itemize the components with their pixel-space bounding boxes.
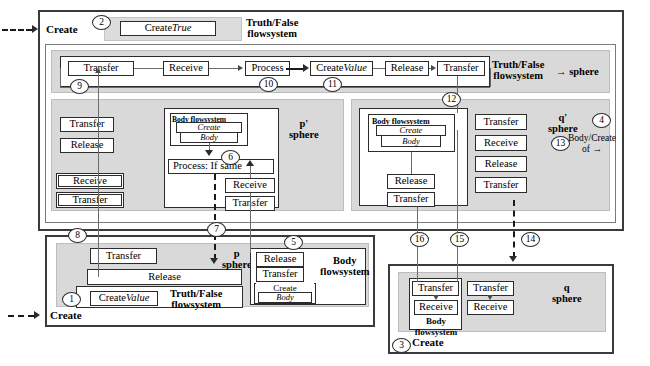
node-col-release: Release (475, 156, 527, 172)
node-bodyp-transfer: Transfer (256, 267, 304, 282)
body-flowsystem-q-label: Body flowsystem (412, 316, 460, 338)
node-col-transfer-2: Transfer (475, 177, 527, 193)
node-pp-body: Body (180, 132, 238, 143)
q-label-line1: q (564, 282, 570, 293)
node-create-true-text: Create (145, 23, 172, 34)
connector-9-vertical (98, 70, 99, 277)
node-left-transfer-2: Transfer (56, 192, 124, 208)
node-col-transfer-1: Transfer (475, 114, 527, 130)
arrow-pp-receive-up (246, 160, 254, 166)
node-p-create-value-em: Value (126, 293, 149, 304)
node-main-create-value-text: Create (316, 63, 343, 74)
node-bodyp-body-text: Body (276, 293, 293, 302)
q-label-line2: sphere (552, 293, 582, 304)
connector-15-vertical (457, 130, 458, 282)
circle-number-5: 5 (284, 235, 303, 250)
node-q-transfer-a: Transfer (412, 281, 459, 296)
entry-arrow-bottom-head (34, 311, 40, 319)
connector-14-arrowhead (509, 256, 517, 262)
node-pp-create-text: Create (198, 123, 221, 132)
circle-number-2: 2 (92, 15, 111, 30)
truth-false-top-label: Truth/False flowsystem (246, 17, 298, 39)
node-p-release: Release (87, 269, 242, 285)
link-transfer-receive (134, 68, 163, 69)
connector-14-dashed (513, 200, 515, 258)
arrow-q-transfer-receive-a (433, 295, 439, 300)
circle-number-13: 13 (551, 136, 570, 151)
circle-number-11: 11 (323, 77, 342, 92)
link-pp-receive-up (250, 166, 251, 178)
circle-number-1: 1 (62, 292, 81, 307)
link-process-createvalue (291, 68, 303, 70)
circle-number-6: 6 (221, 150, 240, 165)
node-main-create-value-em: Value (344, 63, 367, 74)
link-qp-body-release (411, 152, 412, 174)
p-prime-label-line2: sphere (289, 129, 319, 140)
node-p-create-value-text: Create (99, 293, 126, 304)
p-sphere-label: p sphere (222, 248, 252, 270)
node-q-receive-b: Receive (467, 300, 514, 315)
main-loop-left (60, 68, 61, 87)
node-left-release: Release (60, 138, 114, 153)
node-create-true: Create True (120, 21, 216, 36)
link-createvalue-release (373, 68, 385, 69)
circle-number-8: 8 (68, 228, 87, 243)
truth-false-main-label: Truth/False flowsystem (492, 59, 544, 81)
node-main-release: Release (385, 61, 429, 76)
arrow-q-transfer-receive-b (487, 295, 493, 300)
node-main-transfer-1: Transfer (68, 61, 134, 76)
arrow-pp-body-down (205, 150, 213, 156)
p-prime-sphere-label: p' sphere (289, 118, 319, 140)
node-left-receive: Receive (56, 173, 124, 189)
link-receive-process (209, 68, 238, 69)
node-q-receive-a: Receive (414, 300, 458, 315)
node-qp-body-text: Body (402, 137, 419, 146)
node-create-true-em: True (172, 23, 191, 34)
node-col-receive: Receive (475, 135, 527, 151)
node-pp-process-if-same: Process: If same (168, 159, 274, 174)
arrow-release-transfer2 (431, 65, 436, 71)
circle-number-3: 3 (392, 338, 411, 353)
circle-number-15: 15 (450, 232, 469, 247)
truth-false-bottom-line2: flowsystem (171, 299, 221, 310)
q-prime-sphere-label: q' sphere (548, 112, 578, 134)
connector-5-vertical (250, 193, 251, 253)
circle-number-12: 12 (442, 92, 461, 107)
node-main-create-value: Create Value (310, 61, 373, 76)
truth-false-main-label-line2: flowsystem (493, 70, 543, 81)
truth-false-bottom-label: Truth/False flowsystem (170, 288, 222, 310)
circle-number-14: 14 (521, 232, 540, 247)
entry-label-create-top: Create (46, 23, 78, 35)
link-process-createvalue-2 (286, 68, 291, 70)
arrow-receive-process (238, 65, 243, 71)
annotation-4-line1: Body/Create (568, 133, 616, 143)
truth-false-bottom-line1: Truth/False (170, 288, 222, 299)
node-p-transfer: Transfer (90, 248, 157, 264)
p-label-line2: sphere (222, 259, 252, 270)
diagram-canvas: Create 2 Create True Truth/False flowsys… (0, 0, 650, 366)
entry-label-create-bottom-left: Create (50, 309, 82, 321)
body-p-line2: flowsystem (320, 266, 370, 277)
annotation-body-create-of: Body/Create of → (568, 133, 616, 155)
entry-label-create-bottom-right: Create (412, 336, 444, 348)
circle-number-16: 16 (410, 232, 429, 247)
node-pp-body-text: Body (200, 133, 217, 142)
truth-false-top-label-line1: Truth/False (246, 17, 298, 28)
q-prime-label-line1: q' (558, 112, 567, 123)
node-qp-create-text: Create (400, 126, 423, 135)
truth-false-main-label-line1: Truth/False (492, 59, 544, 70)
connector-9-arrowhead (95, 68, 101, 73)
node-bodyp-release: Release (256, 252, 304, 267)
annotation-4-line2: of → (582, 144, 602, 154)
node-left-transfer-1: Transfer (60, 117, 114, 132)
entry-arrow-bottom-line (8, 315, 34, 317)
circle-number-9: 9 (70, 79, 89, 94)
sphere-main-label: → sphere (556, 66, 599, 77)
node-main-process: Process (245, 61, 290, 76)
node-qp-release: Release (387, 174, 435, 189)
node-main-transfer-2: Transfer (437, 61, 485, 76)
truth-false-top-label-line2: flowsystem (247, 28, 297, 39)
node-pp-receive: Receive (225, 178, 275, 193)
p-prime-label-line1: p' (299, 118, 308, 129)
circle-number-7: 7 (207, 222, 226, 237)
